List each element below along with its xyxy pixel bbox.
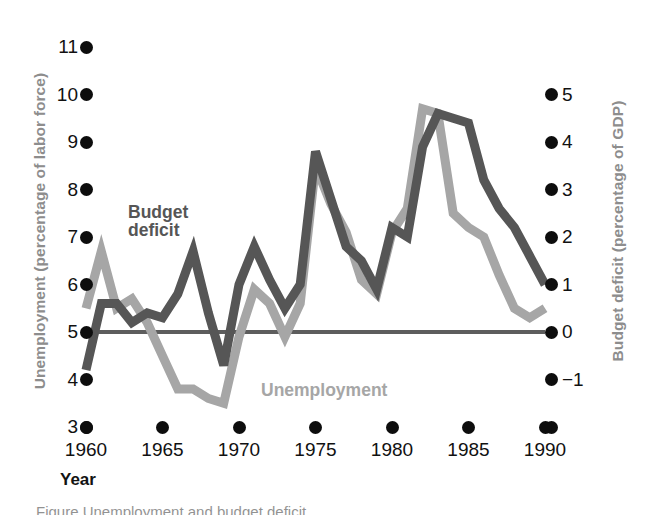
chart-container: Unemployment (percentage of labor force)…: [0, 0, 651, 515]
y-axis-left-tick-label: 10: [44, 85, 78, 104]
x-axis-tick-label: 1970: [204, 440, 274, 459]
y-axis-left-tick-dot: [80, 136, 93, 149]
y-axis-right-tick-label: 0: [562, 322, 602, 341]
x-axis-tick-label: 1965: [128, 440, 198, 459]
budget-deficit-line: [86, 114, 545, 371]
y-axis-left-tick-label: 8: [44, 180, 78, 199]
y-axis-left-tick-dot: [80, 183, 93, 196]
y-axis-right-tick-label: 2: [562, 227, 602, 246]
y-axis-right-tick-label: 4: [562, 132, 602, 151]
x-axis-tick-dot: [156, 421, 169, 434]
x-axis-tick-label: 1975: [281, 440, 351, 459]
series-label-unemployment: Unemployment: [261, 381, 387, 399]
y-axis-right-tick-dot: [545, 326, 558, 339]
y-axis-right-tick-dot: [545, 136, 558, 149]
x-axis-tick-dot: [309, 421, 322, 434]
unemployment-line: [86, 109, 545, 404]
x-axis-tick-label: 1990: [510, 440, 580, 459]
y-axis-left-tick-label: 9: [44, 132, 78, 151]
x-axis-tick-label: 1960: [51, 440, 121, 459]
y-axis-left-tick-label: 3: [44, 417, 78, 436]
y-axis-left-tick-label: 6: [44, 275, 78, 294]
x-axis-tick-dot: [386, 421, 399, 434]
y-axis-left-tick-dot: [80, 41, 93, 54]
x-axis-tick-label: 1980: [357, 440, 427, 459]
y-axis-right-title: Budget deficit (percentage of GDP): [609, 21, 627, 441]
plot-area: [0, 0, 651, 515]
y-axis-right-tick-label: 3: [562, 180, 602, 199]
y-axis-left-tick-label: 11: [44, 37, 78, 56]
y-axis-right-tick-dot: [545, 231, 558, 244]
clipped-figure-caption: Figure Unemployment and budget deficit: [36, 503, 616, 515]
x-axis-title: Year: [60, 470, 96, 490]
y-axis-right-tick-dot: [545, 373, 558, 386]
y-axis-right-tick-dot: [545, 278, 558, 291]
x-axis-tick-label: 1985: [434, 440, 504, 459]
y-axis-left-tick-label: 5: [44, 322, 78, 341]
y-axis-right-tick-dot: [545, 88, 558, 101]
y-axis-right-tick-label: −1: [562, 370, 602, 389]
series-label-budget-deficit: Budget deficit: [128, 203, 188, 240]
y-axis-left-tick-dot: [80, 278, 93, 291]
y-axis-left-tick-dot: [80, 231, 93, 244]
y-axis-right-tick-dot: [545, 183, 558, 196]
y-axis-left-tick-dot: [80, 326, 93, 339]
y-axis-left-tick-label: 4: [44, 370, 78, 389]
x-axis-tick-dot: [233, 421, 246, 434]
y-axis-left-tick-dot: [80, 373, 93, 386]
x-axis-tick-dot: [80, 421, 93, 434]
y-axis-right-tick-label: 5: [562, 85, 602, 104]
y-axis-left-tick-dot: [80, 88, 93, 101]
y-axis-left-tick-label: 7: [44, 227, 78, 246]
y-axis-right-tick-label: 1: [562, 275, 602, 294]
x-axis-tick-dot: [462, 421, 475, 434]
x-axis-tick-dot: [539, 421, 552, 434]
